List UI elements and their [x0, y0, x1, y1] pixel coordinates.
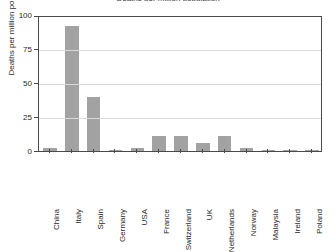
- x-tick-mark: [311, 149, 312, 153]
- x-tick-mark: [180, 149, 181, 153]
- x-tick-mark: [289, 149, 290, 153]
- y-tick-label: 0: [6, 147, 32, 156]
- gridline: [39, 118, 321, 119]
- chart-title: Deaths per million population: [0, 0, 336, 1]
- gridline: [39, 84, 321, 85]
- y-tick-label: 25: [6, 113, 32, 122]
- x-tick-label: Ireland: [293, 209, 302, 233]
- bar: [87, 97, 101, 151]
- x-tick-mark: [114, 149, 115, 153]
- x-tick-mark: [267, 149, 268, 153]
- x-tick-label: Netherlands: [227, 209, 236, 252]
- plot-area: [38, 16, 322, 152]
- y-tick-label: 50: [6, 79, 32, 88]
- y-tick-mark: [34, 49, 38, 50]
- x-tick-label: Malaysia: [271, 209, 280, 241]
- x-tick-label: Germany: [118, 209, 127, 242]
- x-tick-mark: [71, 149, 72, 153]
- x-tick-label: UK: [205, 209, 214, 220]
- x-tick-label: USA: [140, 209, 149, 225]
- x-tick-mark: [93, 149, 94, 153]
- y-tick-mark: [34, 151, 38, 152]
- x-tick-label: France: [162, 209, 171, 234]
- x-tick-mark: [136, 149, 137, 153]
- x-tick-label: Spain: [96, 209, 105, 229]
- x-tick-mark: [158, 149, 159, 153]
- x-tick-mark: [224, 149, 225, 153]
- x-tick-label: Italy: [74, 209, 83, 224]
- y-tick-mark: [34, 117, 38, 118]
- bar: [65, 26, 79, 151]
- x-tick-label: Poland: [315, 209, 324, 234]
- x-tick-mark: [49, 149, 50, 153]
- y-tick-mark: [34, 83, 38, 84]
- y-tick-label: 75: [6, 45, 32, 54]
- x-tick-mark: [202, 149, 203, 153]
- x-axis-labels: ChinaItalySpainGermanyUSAFranceSwitzerla…: [38, 153, 322, 211]
- x-tick-label: Norway: [249, 209, 258, 236]
- y-tick-label: 100: [6, 11, 32, 20]
- x-tick-label: Switzerland: [184, 209, 193, 250]
- y-tick-mark: [34, 16, 38, 17]
- x-tick-label: China: [52, 209, 61, 230]
- gridline: [39, 50, 321, 51]
- x-tick-mark: [246, 149, 247, 153]
